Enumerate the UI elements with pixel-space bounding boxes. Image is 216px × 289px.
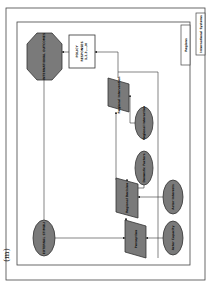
international-systems-label: International Systems: [199, 15, 203, 53]
regional-decision-node: Regional Decision: [116, 178, 138, 218]
perception-label: Perception: [134, 230, 138, 248]
policy-label-2: RESPONSES: [80, 41, 84, 61]
policy-label-3: 1,2,3,...,N: [84, 43, 88, 60]
actor-interests-node: Actor Interests: [163, 180, 183, 214]
regional-interaction-node: Regional Interaction: [135, 106, 153, 140]
regional-interaction-label: Regional Interaction: [142, 106, 146, 140]
regional-decision-label: Regional Decision: [125, 183, 129, 213]
panel-label: (m): [2, 248, 11, 262]
perception-node: Perception: [125, 220, 146, 258]
international-outcomes-node: INTERNATIONAL OUTCOMES: [27, 33, 62, 80]
international-outcomes-label: INTERNATIONAL OUTCOMES: [42, 33, 46, 80]
diagram-canvas: International Systems Regions INTERNATIO…: [0, 0, 216, 289]
policy-responses-node: POLICY RESPONSES 1,2,3,...,N: [69, 35, 95, 68]
external-stimuli-label: EXTERNAL STIMULI: [42, 222, 46, 254]
domestic-factors-label: Domestic Factors: [142, 153, 146, 182]
domestic-factors-node: Domestic Factors: [135, 151, 153, 185]
regional-intervention-label: Regional Intervention: [117, 77, 121, 114]
regions-label: Regions: [184, 38, 188, 52]
external-stimuli-node: EXTERNAL STIMULI: [33, 220, 55, 256]
regional-intervention-node: Regional Intervention: [108, 77, 129, 114]
actor-capacity-label: Actor Capacity: [171, 226, 175, 251]
actor-interests-label: Actor Interests: [171, 184, 175, 210]
policy-label-1: POLICY: [75, 45, 79, 58]
actor-capacity-node: Actor Capacity: [163, 221, 183, 255]
